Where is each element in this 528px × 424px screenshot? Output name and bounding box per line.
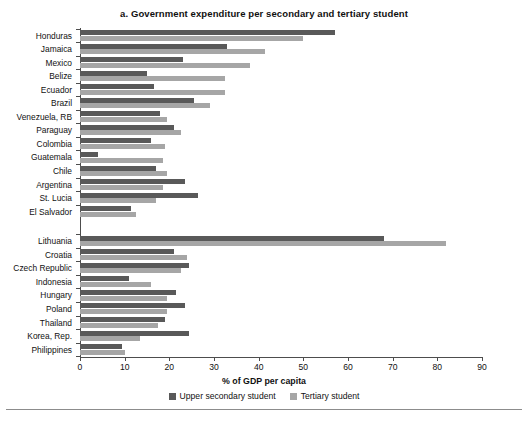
y-axis-category-label: Philippines — [31, 346, 72, 355]
bar-tertiary — [80, 103, 210, 108]
y-axis-category-label: Mexico — [45, 59, 72, 68]
bar-upper-secondary — [80, 179, 185, 184]
x-axis-tick-label: 20 — [157, 362, 181, 372]
y-axis-category-label: Hungary — [40, 291, 72, 300]
x-axis-tick-label: 90 — [470, 362, 494, 372]
bar-tertiary — [80, 49, 265, 54]
bar-tertiary — [80, 130, 181, 135]
bar-tertiary — [80, 336, 140, 341]
x-axis-tick — [169, 357, 170, 361]
y-axis-category-labels: HondurasJamaicaMexicoBelizeEcuadorBrazil… — [0, 28, 76, 356]
bar-upper-secondary — [80, 98, 194, 103]
x-axis-tick — [214, 357, 215, 361]
legend-item[interactable]: Tertiary student — [290, 391, 360, 401]
y-axis-category-label: Venezuela, RB — [17, 113, 72, 122]
y-axis-category-label: Thailand — [40, 319, 72, 328]
bar-tertiary — [80, 323, 158, 328]
x-axis-title: % of GDP per capita — [0, 376, 528, 386]
bar-tertiary — [80, 63, 250, 68]
x-axis-tick — [125, 357, 126, 361]
bar-upper-secondary — [80, 30, 335, 35]
bar-upper-secondary — [80, 276, 129, 281]
x-axis-tick-label: 40 — [247, 362, 271, 372]
bar-upper-secondary — [80, 138, 151, 143]
bar-upper-secondary — [80, 166, 156, 171]
bar-upper-secondary — [80, 344, 122, 349]
bar-upper-secondary — [80, 44, 227, 49]
bar-tertiary — [80, 76, 225, 81]
bar-upper-secondary — [80, 71, 147, 76]
bar-tertiary — [80, 117, 167, 122]
x-axis-tick — [393, 357, 394, 361]
bar-upper-secondary — [80, 125, 174, 130]
x-axis-tick-label: 60 — [336, 362, 360, 372]
bar-upper-secondary — [80, 303, 185, 308]
bar-upper-secondary — [80, 193, 198, 198]
bar-tertiary — [80, 212, 136, 217]
bar-upper-secondary — [80, 263, 189, 268]
y-axis-category-label: Argentina — [36, 181, 72, 190]
y-axis-category-label: El Salvador — [29, 208, 72, 217]
bar-tertiary — [80, 268, 181, 273]
bar-upper-secondary — [80, 206, 131, 211]
bar-tertiary — [80, 309, 167, 314]
footer-divider — [6, 409, 522, 410]
bar-tertiary — [80, 36, 303, 41]
x-axis-tick-label: 70 — [381, 362, 405, 372]
bar-tertiary — [80, 185, 163, 190]
bar-upper-secondary — [80, 152, 98, 157]
y-axis-category-label: Indonesia — [36, 278, 72, 287]
bar-upper-secondary — [80, 57, 183, 62]
x-axis-tick-label: 30 — [202, 362, 226, 372]
bar-tertiary — [80, 90, 225, 95]
x-axis-tick — [259, 357, 260, 361]
y-axis-category-label: St. Lucia — [39, 194, 72, 203]
bar-tertiary — [80, 158, 163, 163]
x-axis-line — [80, 357, 483, 358]
legend-swatch-icon — [169, 393, 176, 400]
y-axis-category-label: Czech Republic — [13, 264, 72, 273]
bar-tertiary — [80, 144, 165, 149]
x-axis-tick — [303, 357, 304, 361]
x-axis-tick-label: 0 — [68, 362, 92, 372]
bar-tertiary — [80, 255, 187, 260]
x-axis-tick-label: 10 — [113, 362, 137, 372]
bar-upper-secondary — [80, 249, 174, 254]
bar-upper-secondary — [80, 317, 165, 322]
chart-title: a. Government expenditure per secondary … — [0, 8, 528, 19]
bar-tertiary — [80, 198, 156, 203]
legend-label: Tertiary student — [301, 391, 360, 401]
bar-tertiary — [80, 282, 151, 287]
chart-figure: a. Government expenditure per secondary … — [0, 0, 528, 424]
x-axis-tick-label: 50 — [291, 362, 315, 372]
bar-tertiary — [80, 241, 446, 246]
y-axis-category-label: Guatemala — [31, 153, 72, 162]
bar-upper-secondary — [80, 236, 384, 241]
y-axis-category-label: Poland — [46, 305, 72, 314]
y-axis-category-label: Belize — [49, 72, 72, 81]
y-axis-category-label: Korea, Rep. — [27, 332, 72, 341]
y-axis-category-label: Chile — [53, 167, 72, 176]
x-axis-tick — [348, 357, 349, 361]
x-axis-tick — [482, 357, 483, 361]
y-axis-category-label: Colombia — [37, 140, 72, 149]
y-axis-category-label: Croatia — [45, 251, 72, 260]
x-axis-tick — [437, 357, 438, 361]
x-axis-tick — [80, 357, 81, 361]
bar-tertiary — [80, 171, 167, 176]
legend-item[interactable]: Upper secondary student — [169, 391, 276, 401]
chart-legend: Upper secondary studentTertiary student — [0, 391, 528, 401]
y-axis-category-label: Brazil — [51, 99, 72, 108]
legend-label: Upper secondary student — [180, 391, 276, 401]
legend-swatch-icon — [290, 393, 297, 400]
plot-area — [80, 28, 482, 356]
y-axis-category-label: Ecuador — [41, 86, 72, 95]
y-axis-category-label: Honduras — [36, 32, 72, 41]
bar-tertiary — [80, 350, 125, 355]
bar-upper-secondary — [80, 111, 160, 116]
y-axis-category-label: Paraguay — [36, 126, 72, 135]
bar-upper-secondary — [80, 290, 176, 295]
bar-upper-secondary — [80, 331, 189, 336]
bar-upper-secondary — [80, 84, 154, 89]
x-axis-tick-label: 80 — [425, 362, 449, 372]
